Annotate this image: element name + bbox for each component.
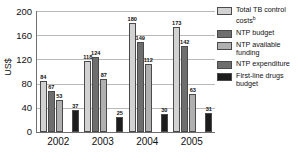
bar-rect[interactable] [189,94,196,132]
legend-label: NTP expenditure [236,60,290,68]
bar-value-label: 63 [190,87,196,93]
bar[interactable]: 112 [145,11,152,132]
bar-value-label: 31 [206,106,212,112]
legend-swatch-icon [217,42,232,50]
bar-value-label: 87 [101,72,107,78]
y-tick-label: 80 [10,79,32,88]
legend-footnote-marker: b [253,15,256,21]
legend-label: NTP available funding [236,41,302,57]
bar-slot-empty [197,11,204,132]
bar[interactable]: 84 [40,11,47,132]
bar-value-label: 124 [91,50,100,56]
bar[interactable]: 180 [129,11,136,132]
bar-slot-empty [153,11,160,132]
bar-group: 18014911230 [128,11,168,132]
bar-value-label: 37 [72,103,78,109]
bar[interactable]: 142 [181,11,188,132]
bar-rect[interactable] [137,42,144,132]
x-tick-label: 2005 [172,136,212,147]
legend-swatch-icon [217,61,232,69]
legend-label: Total TB control costsb [236,6,302,26]
bar-rect[interactable] [48,91,55,132]
legend-item[interactable]: NTP budget [217,29,302,38]
legend-swatch-icon [217,30,232,38]
bar[interactable]: 25 [116,11,123,132]
bar-value-label: 25 [117,110,123,116]
bar-group: 1181248725 [84,11,124,132]
bar[interactable]: 149 [137,11,144,132]
bar[interactable]: 118 [84,11,91,132]
x-tick-label: 2004 [127,136,167,147]
bar-value-label: 30 [161,107,167,113]
bar-rect[interactable] [72,110,79,132]
bar[interactable]: 173 [173,11,180,132]
bar-rect[interactable] [56,100,63,132]
x-tick-label: 2003 [83,136,123,147]
bar-rect[interactable] [145,64,152,132]
legend-item[interactable]: Total TB control costsb [217,6,302,26]
bar[interactable]: 37 [72,11,79,132]
legend-item[interactable]: First-line drugs budget [217,72,302,88]
bar-rect[interactable] [84,61,91,132]
legend-label: First-line drugs budget [236,72,302,88]
legend-label: NTP budget [236,29,274,37]
bar[interactable]: 31 [205,11,212,132]
bar-rect[interactable] [181,46,188,132]
plot-area: 846753371181248725180149112301731426331 [36,11,215,133]
bar-value-label: 112 [144,57,153,63]
x-tick-label: 2002 [38,136,78,147]
bar-rect[interactable] [92,57,99,132]
legend-swatch-icon [217,7,232,15]
y-tick-label: 120 [10,55,32,64]
y-tick-label: 160 [10,31,32,40]
bar-value-label: 53 [56,93,62,99]
bar-rect[interactable] [116,117,123,132]
bar-slot-empty [108,11,115,132]
bar-value-label: 180 [128,16,137,22]
bar-group: 1731426331 [173,11,213,132]
y-axis-tick-labels: 200 160 120 80 40 0 [8,0,32,167]
bar-rect[interactable] [161,114,168,132]
legend-swatch-icon [217,73,232,81]
bar[interactable]: 53 [56,11,63,132]
bar-slot-empty [64,11,71,132]
bar-rect[interactable] [205,113,212,132]
bar-value-label: 173 [172,20,181,26]
y-tick-label: 40 [10,103,32,112]
bar-value-label: 67 [48,84,54,90]
y-tick-label: 200 [10,7,32,16]
bar[interactable]: 30 [161,11,168,132]
bar-groups: 846753371181248725180149112301731426331 [37,11,215,132]
chart-legend: Total TB control costsbNTP budgetNTP ava… [217,6,302,92]
bar[interactable]: 87 [100,11,107,132]
y-tick-label: 0 [10,127,32,136]
bar[interactable]: 67 [48,11,55,132]
legend-item[interactable]: NTP available funding [217,41,302,57]
bar-group: 84675337 [39,11,79,132]
bar-rect[interactable] [100,79,107,132]
x-axis-tick-labels: 2002 2003 2004 2005 [36,136,214,147]
bar[interactable]: 63 [189,11,196,132]
bar-value-label: 84 [40,74,46,80]
bar-rect[interactable] [40,81,47,132]
bar-value-label: 142 [180,39,189,45]
bar-value-label: 149 [136,35,145,41]
legend-item[interactable]: NTP expenditure [217,60,302,69]
bar-chart-figure: US$ 200 160 120 80 40 0 8467533711812487… [0,0,302,167]
bar[interactable]: 124 [92,11,99,132]
